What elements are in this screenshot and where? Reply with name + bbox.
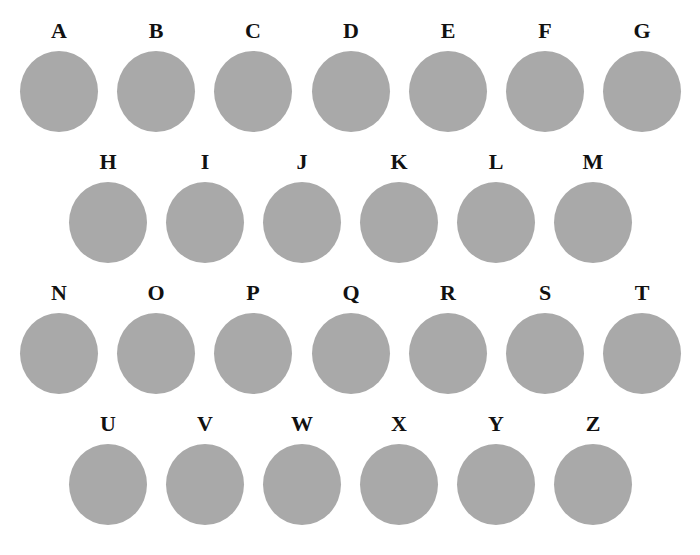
circle-item-r: R [403,282,493,412]
circle-item-n: N [14,282,104,412]
circle-shape [360,182,438,263]
circle-label: M [548,151,638,173]
circle-label: T [597,282,687,304]
circle-item-v: V [160,413,250,543]
circle-shape [263,182,341,263]
circle-shape [409,313,487,394]
circle-item-u: U [63,413,153,543]
circle-item-y: Y [451,413,541,543]
circle-item-x: X [354,413,444,543]
circle-shape [360,444,438,525]
circle-label: V [160,413,250,435]
circle-item-f: F [500,20,590,150]
circle-shape [409,51,487,132]
circle-label: U [63,413,153,435]
circle-shape [603,313,681,394]
circle-label: A [14,20,104,42]
circle-label: S [500,282,590,304]
circle-shape [214,313,292,394]
circle-shape [506,313,584,394]
labeled-circle-grid: A B C D E F G H I J K L [0,0,700,555]
circle-label: D [306,20,396,42]
circle-item-o: O [111,282,201,412]
circle-shape [166,182,244,263]
circle-item-q: Q [306,282,396,412]
circle-label: W [257,413,347,435]
circle-item-h: H [63,151,153,281]
circle-item-i: I [160,151,250,281]
circle-shape [554,182,632,263]
circle-item-m: M [548,151,638,281]
circle-item-z: Z [548,413,638,543]
circle-label: Q [306,282,396,304]
circle-label: C [208,20,298,42]
circle-shape [166,444,244,525]
circle-label: P [208,282,298,304]
circle-item-d: D [306,20,396,150]
circle-shape [263,444,341,525]
circle-label: Z [548,413,638,435]
circle-item-s: S [500,282,590,412]
circle-shape [20,313,98,394]
circle-label: N [14,282,104,304]
circle-shape [457,182,535,263]
circle-item-p: P [208,282,298,412]
circle-item-t: T [597,282,687,412]
circle-item-b: B [111,20,201,150]
circle-label: R [403,282,493,304]
circle-shape [506,51,584,132]
circle-shape [69,182,147,263]
circle-shape [603,51,681,132]
circle-label: J [257,151,347,173]
circle-shape [117,313,195,394]
circle-label: L [451,151,541,173]
circle-shape [69,444,147,525]
circle-shape [20,51,98,132]
circle-label: Y [451,413,541,435]
circle-item-w: W [257,413,347,543]
circle-label: I [160,151,250,173]
circle-shape [312,313,390,394]
circle-item-a: A [14,20,104,150]
circle-item-e: E [403,20,493,150]
circle-item-j: J [257,151,347,281]
circle-item-k: K [354,151,444,281]
circle-item-g: G [597,20,687,150]
circle-label: K [354,151,444,173]
circle-shape [457,444,535,525]
circle-shape [117,51,195,132]
circle-label: B [111,20,201,42]
circle-item-l: L [451,151,541,281]
circle-label: E [403,20,493,42]
circle-label: H [63,151,153,173]
circle-shape [312,51,390,132]
circle-label: O [111,282,201,304]
circle-label: G [597,20,687,42]
circle-shape [554,444,632,525]
circle-item-c: C [208,20,298,150]
circle-label: F [500,20,590,42]
circle-shape [214,51,292,132]
circle-label: X [354,413,444,435]
